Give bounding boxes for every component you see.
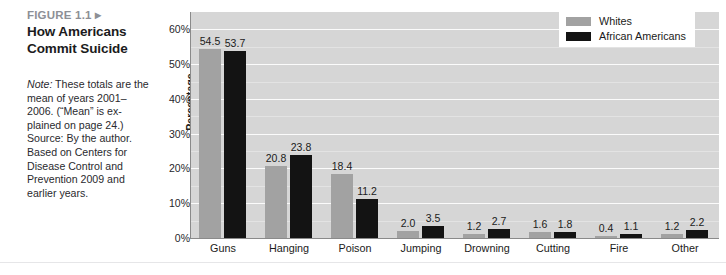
figure-title: How Americans Commit Suicide <box>27 24 149 57</box>
bar[interactable]: 0.4 <box>595 236 617 238</box>
figure-number-label: FIGURE 1.1 ▸ <box>27 8 149 23</box>
legend-label: Whites <box>599 15 632 27</box>
bar-value-label: 1.1 <box>624 220 639 232</box>
bar-value-label: 23.8 <box>291 141 311 153</box>
bar-value-label: 1.8 <box>558 218 573 230</box>
x-axis-tick-jumping: Jumping <box>401 242 442 254</box>
bar-value-label: 2.0 <box>401 217 416 229</box>
bar-value-label: 2.7 <box>492 215 507 227</box>
y-axis-tick-0: 0% <box>150 232 190 244</box>
y-axis-tick-30: 30% <box>150 128 190 140</box>
legend-swatch-icon <box>566 32 591 41</box>
x-axis-tick-fire: Fire <box>610 242 629 254</box>
y-axis-tick-10: 10% <box>150 197 190 209</box>
bar[interactable]: 1.2 <box>463 234 485 238</box>
bar[interactable]: 18.4 <box>331 174 353 238</box>
page-divider <box>0 262 726 263</box>
legend-label: African Americans <box>599 30 686 42</box>
bar-value-label: 53.7 <box>225 37 245 49</box>
figure-source: Source: By the author. Based on Centers … <box>27 132 149 200</box>
bar-value-label: 1.2 <box>665 220 680 232</box>
bar-value-label: 3.5 <box>426 212 441 224</box>
x-axis-tick-guns: Guns <box>210 242 236 254</box>
y-axis-tick-60: 60% <box>150 23 190 35</box>
bar-chart: Percentage 0%10%20%30%40%50%60% 54.553.7… <box>150 0 726 262</box>
bar[interactable]: 1.6 <box>529 232 551 238</box>
bar-value-label: 20.8 <box>266 152 286 164</box>
bar-value-label: 1.2 <box>467 220 482 232</box>
y-axis-tick-50: 50% <box>150 58 190 70</box>
figure-notes: Note: These totals are the mean of years… <box>27 78 149 200</box>
bar[interactable]: 23.8 <box>290 155 312 238</box>
y-axis-tick-40: 40% <box>150 93 190 105</box>
figure-note: Note: These totals are the mean of years… <box>27 78 149 132</box>
bar[interactable]: 1.8 <box>554 232 576 238</box>
x-axis-tick-labels: GunsHangingPoisonJumpingDrowningCuttingF… <box>190 242 718 262</box>
bar[interactable]: 20.8 <box>265 166 287 238</box>
bar[interactable]: 3.5 <box>422 226 444 238</box>
bar-group: 18.411.2 <box>323 12 389 238</box>
x-axis-tick-poison: Poison <box>338 242 371 254</box>
bar-value-label: 54.5 <box>200 35 220 47</box>
source-lead: Source: <box>27 132 64 144</box>
bar-value-label: 18.4 <box>332 160 352 172</box>
bar-group: 1.22.7 <box>455 12 521 238</box>
bar-group: 20.823.8 <box>257 12 323 238</box>
bar[interactable]: 11.2 <box>356 199 378 238</box>
figure-caption-column: FIGURE 1.1 ▸ How Americans Commit Suicid… <box>27 8 149 200</box>
y-axis-tick-labels: 0%10%20%30%40%50%60% <box>150 0 190 262</box>
bar-value-label: 2.2 <box>690 216 705 228</box>
bar[interactable]: 1.2 <box>661 234 683 238</box>
bar-value-label: 11.2 <box>357 185 377 197</box>
note-lead: Note: <box>27 78 52 90</box>
x-axis-tick-cutting: Cutting <box>536 242 570 254</box>
bar-group: 54.553.7 <box>191 12 257 238</box>
legend-swatch-icon <box>566 17 591 26</box>
y-axis-tick-20: 20% <box>150 162 190 174</box>
bar[interactable]: 53.7 <box>224 51 246 238</box>
bar-value-label: 0.4 <box>599 222 614 234</box>
bar-group: 2.03.5 <box>389 12 455 238</box>
bar[interactable]: 2.2 <box>686 230 708 238</box>
bar[interactable]: 2.7 <box>488 229 510 238</box>
bar-value-label: 1.6 <box>533 218 548 230</box>
bar[interactable]: 2.0 <box>397 231 419 238</box>
x-axis-tick-hanging: Hanging <box>269 242 309 254</box>
legend-item[interactable]: Whites <box>566 15 686 27</box>
bar[interactable]: 1.1 <box>620 234 642 238</box>
bar[interactable]: 54.5 <box>199 49 221 238</box>
legend-item[interactable]: African Americans <box>566 30 686 42</box>
x-axis-tick-drowning: Drowning <box>464 242 510 254</box>
x-axis-tick-other: Other <box>671 242 698 254</box>
chart-legend: WhitesAfrican Americans <box>559 10 695 47</box>
